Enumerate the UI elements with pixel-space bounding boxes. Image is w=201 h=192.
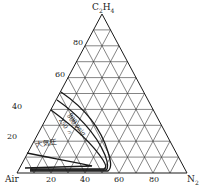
bottom-tick-20: 20	[46, 176, 56, 184]
bottom-tick-40: 40	[80, 176, 90, 184]
vertex-label-c2h4: C2H4	[92, 3, 114, 14]
vertex-label-air: Air	[5, 175, 19, 184]
bottom-tick-60: 60	[114, 176, 124, 184]
left-tick-80: 80	[73, 39, 83, 47]
grid-lines	[26, 30, 179, 173]
vertex-label-n2: N2	[187, 175, 199, 186]
bottom-tick-80: 80	[149, 176, 159, 184]
ternary-diagram	[0, 0, 201, 192]
left-tick-20: 20	[7, 133, 17, 141]
left-tick-60: 60	[55, 71, 65, 79]
left-tick-40: 40	[12, 103, 22, 111]
